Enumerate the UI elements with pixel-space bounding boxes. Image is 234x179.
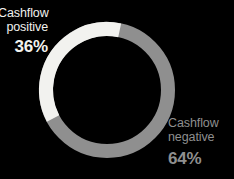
callout-label-positive: Cashflow positive 36% [0,6,48,56]
callout-negative-line2: negative [168,130,234,144]
donut-ring [35,18,180,163]
callout-positive-value: 36% [0,37,48,56]
callout-positive-line1: Cashflow [0,6,48,20]
callout-negative-value: 64% [168,149,234,168]
donut-slice-positive[interactable] [35,18,180,163]
callout-label-negative: Cashflow negative 64% [168,116,234,168]
callout-negative-line1: Cashflow [168,116,234,130]
donut-chart-container: Cashflow positive 36% Cashflow negative … [0,0,234,179]
callout-positive-line2: positive [0,20,48,34]
